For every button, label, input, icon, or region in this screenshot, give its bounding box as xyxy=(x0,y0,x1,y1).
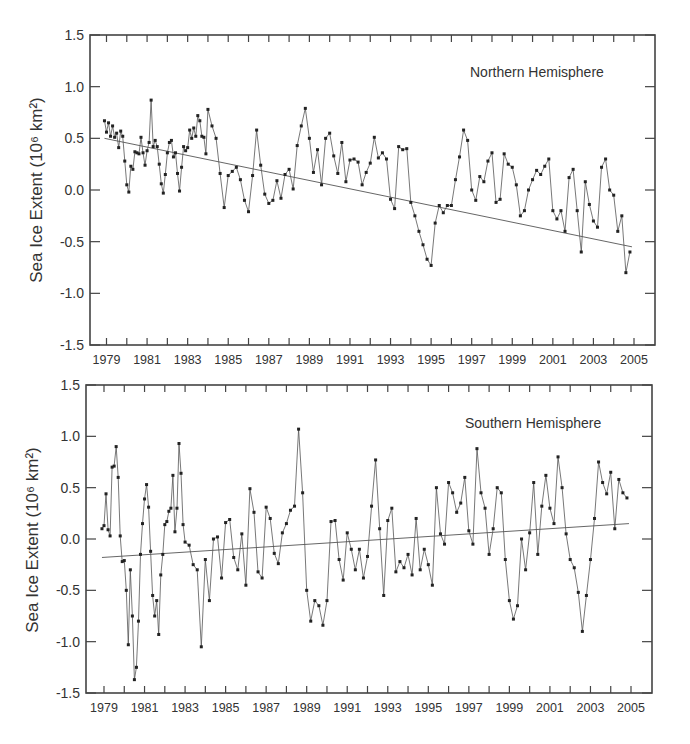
data-point xyxy=(312,171,315,174)
data-point xyxy=(255,129,258,132)
data-point xyxy=(422,243,425,246)
data-point xyxy=(332,154,335,157)
data-point xyxy=(470,189,473,192)
x-tick-label: 1995 xyxy=(417,353,445,367)
data-point xyxy=(252,511,255,514)
data-point xyxy=(462,129,465,132)
data-point xyxy=(443,543,446,546)
data-point xyxy=(503,152,506,155)
data-point xyxy=(173,530,176,533)
data-point xyxy=(288,168,291,171)
x-tick-label: 2003 xyxy=(580,353,608,367)
data-point xyxy=(265,506,268,509)
x-tick-label: 1993 xyxy=(377,353,405,367)
data-point xyxy=(178,190,181,193)
data-point xyxy=(511,166,514,169)
data-point xyxy=(267,202,270,205)
data-point xyxy=(137,152,140,155)
data-point xyxy=(488,553,491,556)
data-point xyxy=(438,204,441,207)
data-point xyxy=(547,158,550,161)
data-point xyxy=(536,553,539,556)
data-point xyxy=(271,199,274,202)
data-point xyxy=(581,630,584,633)
data-point xyxy=(285,522,288,525)
data-point xyxy=(451,491,454,494)
y-tick-label: 0.0 xyxy=(61,531,81,547)
data-point xyxy=(600,166,603,169)
data-point xyxy=(454,178,457,181)
data-point xyxy=(620,214,623,217)
y-tick-label: 1.5 xyxy=(61,377,81,393)
y-tick-label: -0.5 xyxy=(60,234,84,250)
data-point xyxy=(123,160,126,163)
data-point xyxy=(357,161,360,164)
data-point xyxy=(109,534,112,537)
x-tick-label: 1981 xyxy=(133,353,161,367)
data-point xyxy=(152,145,155,148)
data-point xyxy=(148,141,151,144)
data-point xyxy=(500,491,503,494)
data-point xyxy=(235,166,238,169)
data-point xyxy=(338,558,341,561)
data-point xyxy=(117,146,120,149)
data-point xyxy=(259,164,262,167)
data-point xyxy=(324,137,327,140)
data-point xyxy=(281,531,284,534)
data-point xyxy=(115,445,118,448)
data-point xyxy=(115,132,118,135)
data-point xyxy=(499,198,502,201)
data-point xyxy=(580,251,583,254)
data-point xyxy=(279,197,282,200)
data-point xyxy=(616,230,619,233)
data-point xyxy=(612,194,615,197)
data-point xyxy=(269,517,272,520)
data-point xyxy=(109,135,112,138)
data-point xyxy=(198,119,201,122)
data-point xyxy=(153,615,156,618)
figure-canvas: 1.51.00.50.0-0.5-1.0-1.51979198119831985… xyxy=(0,0,690,744)
y-tick-label: 1.0 xyxy=(61,428,81,444)
northern-hemisphere-panel: 1.51.00.50.0-0.5-1.0-1.51979198119831985… xyxy=(27,27,655,367)
data-point xyxy=(317,604,320,607)
panel-annotation: Northern Hemisphere xyxy=(470,64,604,80)
data-point xyxy=(190,137,193,140)
data-point xyxy=(585,594,588,597)
data-point xyxy=(520,538,523,541)
data-point xyxy=(568,176,571,179)
data-point xyxy=(142,151,145,154)
data-point xyxy=(576,209,579,212)
data-point xyxy=(527,189,530,192)
data-point xyxy=(482,180,485,183)
trend-line xyxy=(102,524,629,558)
data-point xyxy=(127,191,130,194)
data-point xyxy=(548,507,551,510)
data-point xyxy=(377,156,380,159)
data-point xyxy=(373,136,376,139)
x-tick-label: 1985 xyxy=(212,701,240,715)
data-point xyxy=(535,169,538,172)
data-point xyxy=(604,158,607,161)
data-point xyxy=(239,178,242,181)
data-point xyxy=(211,124,214,127)
data-point xyxy=(223,206,226,209)
data-point xyxy=(215,137,218,140)
data-point xyxy=(374,458,377,461)
data-point xyxy=(584,180,587,183)
y-tick-label: 0.5 xyxy=(61,480,81,496)
data-point xyxy=(519,214,522,217)
data-point xyxy=(415,517,418,520)
data-point xyxy=(119,534,122,537)
x-tick-label: 1983 xyxy=(171,701,199,715)
x-tick-label: 1985 xyxy=(214,353,242,367)
data-point xyxy=(411,573,414,576)
data-point xyxy=(105,131,108,134)
data-point xyxy=(273,552,276,555)
data-point xyxy=(455,511,458,514)
data-point xyxy=(561,486,564,489)
data-point xyxy=(111,124,114,127)
data-point xyxy=(336,172,339,175)
data-point xyxy=(348,159,351,162)
data-point xyxy=(463,476,466,479)
data-point xyxy=(512,618,515,621)
